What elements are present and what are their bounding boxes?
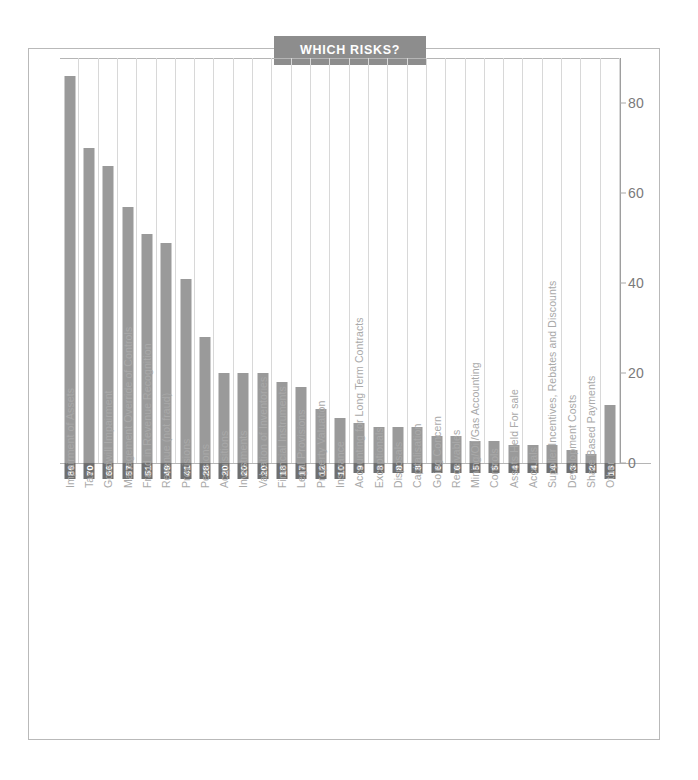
category-label: Management Override of Controls (122, 327, 134, 488)
bar-slot (523, 58, 542, 463)
category-label: Other (604, 461, 616, 488)
y-axis-tick-mark (620, 373, 626, 374)
y-axis-tick-label: 0 (628, 455, 636, 471)
category-label: Revenue (not fraud) (160, 393, 172, 488)
y-axis-tick-mark (620, 463, 626, 464)
category-label: Exceptionals (373, 427, 385, 488)
y-axis-tick-mark (620, 193, 626, 194)
category-label: Impairment of Assets (64, 388, 76, 488)
y-axis: 020406080 (620, 58, 690, 463)
bar-slot (485, 58, 504, 463)
bar[interactable] (83, 148, 94, 463)
category-label: Accounting for Long Term Contracts (353, 317, 365, 488)
category-label: Property Valuation (315, 401, 327, 488)
category-label: Provisions (180, 439, 192, 488)
category-label: Capitalisation (411, 424, 423, 488)
y-axis-tick-label: 60 (628, 185, 644, 201)
y-axis-tick-label: 20 (628, 365, 644, 381)
category-label: Valuation of Inventories (257, 377, 269, 488)
bar-slot (330, 58, 349, 463)
category-label: Tax (83, 471, 95, 488)
bar-slot (195, 58, 214, 463)
category-label: Controls (488, 448, 500, 488)
category-label: Fraud in Revenue Recognition (141, 343, 153, 488)
bar-slot (601, 58, 620, 463)
category-label: Going Concern (431, 416, 443, 488)
bar[interactable] (180, 279, 191, 464)
category-label: Legal Provisions (295, 409, 307, 488)
category-label: Assets Held For sale (508, 389, 520, 488)
category-label-row: Impairment of AssetsTaxGoodwill Impairme… (60, 488, 620, 738)
y-axis-tick-label: 40 (628, 275, 644, 291)
bar-slot (79, 58, 98, 463)
category-label: Goodwill Impairment (102, 390, 114, 488)
category-label: Financial Instruments (276, 386, 288, 488)
category-label: Share Based Payments (585, 376, 597, 488)
category-label: Receivables (450, 430, 462, 488)
category-label: Supplier Incentives, Rebates and Discoun… (546, 281, 558, 488)
category-label: Investments (237, 430, 249, 488)
bar-slot (292, 58, 311, 463)
category-label: Insurance (334, 441, 346, 488)
category-label: Accruals (527, 447, 539, 488)
bar-slot (234, 58, 253, 463)
category-label: Development Costs (566, 395, 578, 488)
category-label: Pensions (199, 444, 211, 488)
bar-slot (369, 58, 388, 463)
category-label: Disposals (392, 442, 404, 488)
bar-slot (408, 58, 427, 463)
y-axis-tick-label: 80 (628, 95, 644, 111)
category-label: Acquisitions (218, 431, 230, 488)
bar[interactable] (605, 405, 616, 464)
bar-slot (427, 58, 446, 463)
bar-slot (446, 58, 465, 463)
bar-slot (388, 58, 407, 463)
category-label: Mining/Oil/Gas Accounting (469, 362, 481, 488)
bar-slot (176, 58, 195, 463)
y-axis-tick-mark (620, 283, 626, 284)
bar-slot (214, 58, 233, 463)
y-axis-tick-mark (620, 103, 626, 104)
